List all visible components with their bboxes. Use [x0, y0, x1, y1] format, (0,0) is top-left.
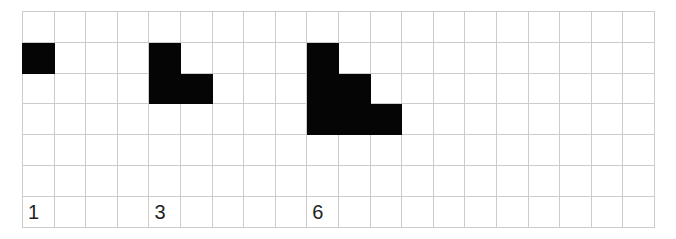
grid-cell [591, 42, 623, 73]
grid-cell [117, 104, 149, 135]
grid-cell [275, 42, 307, 73]
grid-cell [244, 104, 276, 135]
grid-cell [23, 73, 55, 104]
grid-cell [370, 12, 402, 43]
grid-cell [212, 135, 244, 166]
grid-cell [528, 12, 560, 43]
grid-cell [560, 42, 592, 73]
grid-cell [54, 196, 86, 227]
grid-cell [86, 165, 118, 196]
grid-cell [591, 104, 623, 135]
grid-cell [149, 104, 181, 135]
grid-cell [117, 73, 149, 104]
filled-cell [370, 104, 402, 135]
grid-cell [117, 42, 149, 73]
grid-cell [528, 104, 560, 135]
filled-cell [307, 104, 339, 135]
grid-cell [180, 42, 212, 73]
grid-cell [496, 73, 528, 104]
grid-cell [117, 135, 149, 166]
grid-cell [275, 196, 307, 227]
grid-row [23, 73, 655, 104]
grid-cell [496, 196, 528, 227]
figure-description: Growing staircase pattern drawn on a squ… [0, 0, 1, 1]
grid-cell [212, 12, 244, 43]
grid-cell [465, 196, 497, 227]
grid-cell [23, 12, 55, 43]
grid-cell [433, 104, 465, 135]
grid-cell [244, 165, 276, 196]
grid-row [23, 135, 655, 166]
grid-cell [244, 12, 276, 43]
grid-cell [496, 104, 528, 135]
grid-cell [402, 42, 434, 73]
grid-cell [465, 165, 497, 196]
grid-cell [244, 135, 276, 166]
grid-cell: 1 [23, 196, 55, 227]
grid-cell [528, 196, 560, 227]
filled-cell [149, 42, 181, 73]
grid-cell [370, 73, 402, 104]
grid-cell [275, 73, 307, 104]
grid-cell [623, 165, 655, 196]
grid-cell [338, 135, 370, 166]
filled-cell [307, 73, 339, 104]
grid-cell [465, 104, 497, 135]
grid-cell [86, 135, 118, 166]
grid-cell [23, 104, 55, 135]
grid-cell [560, 73, 592, 104]
grid-cell [402, 73, 434, 104]
grid-cell [433, 165, 465, 196]
grid-cell [591, 135, 623, 166]
grid-row [23, 104, 655, 135]
grid-cell [117, 165, 149, 196]
grid-cell [275, 104, 307, 135]
grid-cell [180, 196, 212, 227]
grid-cell [180, 135, 212, 166]
filled-cell [338, 104, 370, 135]
grid-cell [149, 12, 181, 43]
grid-cell [338, 196, 370, 227]
grid-cell [402, 12, 434, 43]
grid-cell [54, 135, 86, 166]
grid-cell [433, 73, 465, 104]
grid-cell [623, 73, 655, 104]
grid-cell [591, 196, 623, 227]
grid-cell [23, 135, 55, 166]
grid-cell [212, 42, 244, 73]
grid-cell [54, 12, 86, 43]
grid-cell [275, 12, 307, 43]
grid-cell [560, 165, 592, 196]
grid-cell [212, 104, 244, 135]
grid-cell [591, 165, 623, 196]
grid-cell [307, 165, 339, 196]
grid-cell [275, 165, 307, 196]
filled-cell [23, 42, 55, 73]
grid-cell [560, 196, 592, 227]
grid-cell [433, 42, 465, 73]
grid-cell [149, 165, 181, 196]
grid-cell [54, 165, 86, 196]
grid-cell [180, 104, 212, 135]
grid-cell [370, 135, 402, 166]
grid-cell [560, 135, 592, 166]
filled-cell [180, 73, 212, 104]
grid-cell [623, 42, 655, 73]
grid-cell [528, 73, 560, 104]
grid-cell [560, 12, 592, 43]
grid-cell [244, 73, 276, 104]
grid-cell [180, 12, 212, 43]
grid-cell [560, 104, 592, 135]
grid-cell [244, 196, 276, 227]
grid-cell [54, 104, 86, 135]
grid-cell [465, 42, 497, 73]
grid-cell [212, 196, 244, 227]
grid-cell [370, 196, 402, 227]
grid-row [23, 165, 655, 196]
grid-cell [528, 135, 560, 166]
grid-cell [528, 165, 560, 196]
grid-cell [528, 42, 560, 73]
grid-cell [338, 165, 370, 196]
figure-canvas: 136 Growing staircase pattern drawn on a… [0, 0, 676, 239]
grid-cell [496, 135, 528, 166]
